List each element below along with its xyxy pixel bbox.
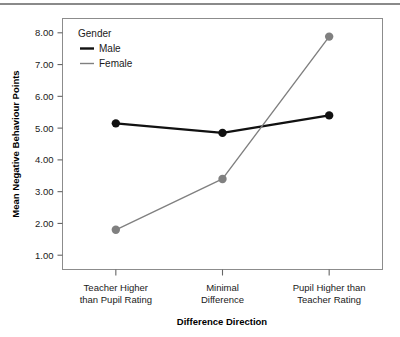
y-tick-label: 7.00 <box>35 59 54 70</box>
y-tick-label: 2.00 <box>35 218 54 229</box>
chart-legend: Gender MaleFemale <box>78 28 133 69</box>
y-axis-title: Mean Negative Behaviour Points <box>10 70 21 217</box>
x-tick-label: Teacher Higher <box>84 282 148 293</box>
legend-label-male: Male <box>99 43 121 54</box>
x-tick-label: Teacher Rating <box>297 294 361 305</box>
x-tick-label: than Pupil Rating <box>80 294 152 305</box>
data-series-group <box>112 32 334 234</box>
figure-container: 1.002.003.004.005.006.007.008.00 Gender … <box>0 0 400 337</box>
x-tick-label: Minimal <box>206 282 239 293</box>
data-point-male <box>112 119 120 127</box>
data-point-male <box>325 111 333 119</box>
x-axis-tick-labels: Teacher Higherthan Pupil RatingMinimalDi… <box>80 282 366 305</box>
plot-area-border <box>63 19 383 270</box>
data-point-female <box>112 226 120 234</box>
x-tick-label: Pupil Higher than <box>293 282 366 293</box>
y-tick-label: 3.00 <box>35 186 54 197</box>
y-tick-label: 4.00 <box>35 154 54 165</box>
data-point-male <box>218 129 226 137</box>
x-axis-title: Difference Direction <box>177 316 267 327</box>
x-axis-ticks <box>116 270 329 276</box>
y-tick-label: 6.00 <box>35 91 54 102</box>
y-axis-ticks: 1.002.003.004.005.006.007.008.00 <box>35 27 63 260</box>
legend-title: Gender <box>78 28 112 39</box>
data-point-female <box>325 32 333 40</box>
y-tick-label: 1.00 <box>35 250 54 261</box>
data-point-female <box>218 175 226 183</box>
y-tick-label: 5.00 <box>35 123 54 134</box>
plot-frame <box>63 19 383 270</box>
x-tick-label: Difference <box>201 294 244 305</box>
y-tick-label: 8.00 <box>35 27 54 38</box>
legend-label-female: Female <box>99 58 133 69</box>
line-chart: 1.002.003.004.005.006.007.008.00 Gender … <box>0 0 400 337</box>
